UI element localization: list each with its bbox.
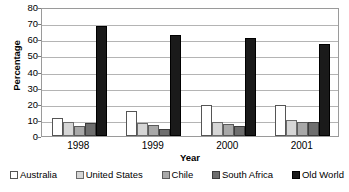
bar-south-africa-1999: [159, 129, 170, 136]
y-axis-tick-mark: [36, 121, 41, 122]
x-axis-tick-label: 2000: [190, 140, 265, 151]
bar-chile-2000: [223, 124, 234, 136]
bar-south-africa-1998: [85, 123, 96, 136]
y-axis-tick-label: 60: [18, 36, 38, 46]
y-axis-tick-mark: [36, 8, 41, 9]
bar-south-africa-2000: [234, 126, 245, 136]
bar-chart-figure: Percentage 01020304050607080 19981999200…: [0, 0, 349, 192]
y-axis-tick-label: 20: [18, 100, 38, 110]
bar-south-africa-2001: [308, 122, 319, 136]
legend-label-chile: Chile: [172, 170, 194, 180]
legend-item-australia: Australia: [10, 170, 57, 180]
bar-old-world-1999: [170, 35, 181, 136]
x-axis-tick-label: 1998: [41, 140, 116, 151]
bar-united-states-2001: [286, 120, 297, 136]
x-axis-tick-label: 1999: [116, 140, 191, 151]
y-axis-tick-mark: [36, 137, 41, 138]
legend-swatch-old-world: [292, 171, 300, 179]
bar-united-states-1999: [137, 123, 148, 136]
y-axis-tick-label: 70: [18, 19, 38, 29]
y-axis-tick-mark: [36, 40, 41, 41]
y-axis-tick-label: 10: [18, 116, 38, 126]
legend-label-south-africa: South Africa: [222, 170, 273, 180]
y-axis-tick-label: 30: [18, 84, 38, 94]
y-axis-tick-label: 0: [18, 132, 38, 142]
bar-group: [42, 9, 117, 136]
legend-swatch-australia: [10, 171, 18, 179]
legend-item-south-africa: South Africa: [212, 170, 273, 180]
x-axis-title: Year: [41, 152, 339, 163]
bar-australia-1998: [52, 118, 63, 136]
bar-australia-2000: [201, 105, 212, 136]
plot-area: [41, 8, 339, 137]
y-axis-tick-mark: [36, 56, 41, 57]
legend-label-australia: Australia: [20, 170, 57, 180]
legend-item-old-world: Old World: [292, 170, 344, 180]
bar-group: [266, 9, 341, 136]
bar-chile-1998: [74, 126, 85, 136]
bar-old-world-1998: [96, 26, 107, 136]
y-axis-tick-mark: [36, 73, 41, 74]
bar-old-world-2001: [319, 44, 330, 136]
y-axis-tick-mark: [36, 105, 41, 106]
legend-label-united-states: United States: [86, 170, 143, 180]
y-axis-tick-label: 40: [18, 68, 38, 78]
y-axis-tick-mark: [36, 24, 41, 25]
bar-australia-1999: [126, 111, 137, 136]
y-axis-tick-label: 50: [18, 52, 38, 62]
legend-item-chile: Chile: [162, 170, 194, 180]
x-axis-tick-label: 2001: [265, 140, 340, 151]
bar-united-states-1998: [63, 122, 74, 136]
legend-label-old-world: Old World: [302, 170, 344, 180]
y-axis-tick-label: 80: [18, 3, 38, 13]
y-axis-tick-mark: [36, 89, 41, 90]
legend-swatch-south-africa: [212, 171, 220, 179]
chart-legend: AustraliaUnited StatesChileSouth AfricaO…: [10, 170, 344, 180]
bar-chile-2001: [297, 122, 308, 137]
bar-chile-1999: [148, 125, 159, 136]
legend-item-united-states: United States: [76, 170, 143, 180]
y-axis-tick-labels: 01020304050607080: [18, 8, 38, 137]
bar-group: [191, 9, 266, 136]
bar-old-world-2000: [245, 38, 256, 136]
bar-australia-2001: [275, 105, 286, 136]
legend-swatch-united-states: [76, 171, 84, 179]
bar-united-states-2000: [212, 122, 223, 137]
legend-swatch-chile: [162, 171, 170, 179]
bar-group: [117, 9, 192, 136]
